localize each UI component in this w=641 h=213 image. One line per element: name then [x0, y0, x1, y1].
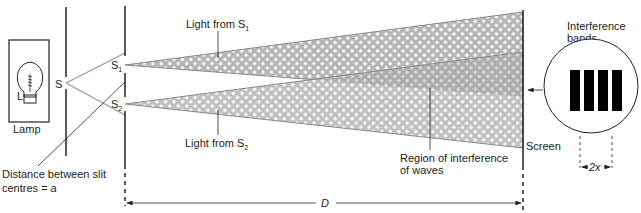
distance-d-dimension: D [127, 197, 521, 209]
screen-label: Screen [526, 140, 561, 152]
slit-distance-label-line1: Distance between slit [2, 168, 106, 180]
slit-s1-label: S1 [111, 59, 122, 73]
region-label-line2: of waves [400, 164, 444, 176]
lamp-box [9, 40, 49, 122]
bulb-label: L [17, 90, 23, 102]
slit-distance-label-line2: centres = a [2, 182, 57, 194]
light-from-s1-label: Light from S1 [186, 18, 249, 32]
light-from-s2-label: Light from S2 [185, 137, 248, 151]
single-slit-barrier: S [55, 7, 66, 156]
double-slit-diagram: L Lamp S S1 S2 Screen Light from S1 [0, 0, 641, 213]
bands-label-line1: Interference [567, 20, 626, 32]
lamp-label: Lamp [13, 123, 41, 135]
fringe-spacing-label: 2x [588, 161, 601, 173]
region-label-line1: Region of interference [400, 152, 508, 164]
double-slit-barrier: S1 S2 [111, 6, 125, 206]
slit-s-label: S [55, 78, 62, 90]
lamp: L Lamp [9, 40, 49, 135]
distance-d-label: D [321, 197, 329, 209]
slit-s2-label: S2 [111, 98, 122, 112]
